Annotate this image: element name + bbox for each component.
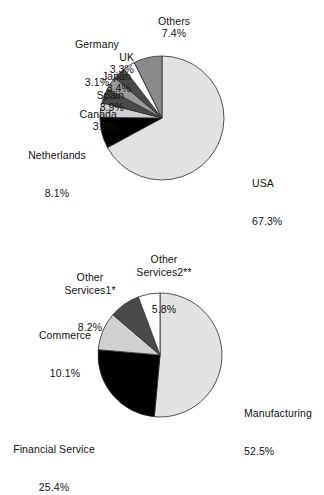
label-manufacturing-name: Manufacturing bbox=[244, 407, 324, 420]
label-others-name: Others bbox=[158, 15, 190, 27]
label-commerce-value: 10.1% bbox=[20, 367, 110, 380]
label-manufacturing: Manufacturing 52.5% bbox=[244, 382, 324, 482]
label-usa-value: 67.3% bbox=[252, 215, 318, 228]
label-others-value: 7.4% bbox=[162, 27, 186, 39]
label-financial-service-name: Financial Service bbox=[2, 443, 106, 456]
label-others: Others 7.4% bbox=[137, 2, 199, 52]
label-usa-name: USA bbox=[252, 177, 318, 190]
label-netherlands-value: 8.1% bbox=[8, 187, 106, 200]
label-netherlands-name: Netherlands bbox=[8, 149, 106, 162]
label-financial-service-value: 25.4% bbox=[2, 481, 106, 494]
label-netherlands: Netherlands 8.1% bbox=[8, 124, 106, 224]
label-other-services2-value: 5.8% bbox=[122, 303, 206, 316]
label-other-services2-name: Other Services2** bbox=[122, 253, 206, 278]
label-canada-name: Canada bbox=[80, 108, 117, 120]
label-commerce-name: Commerce bbox=[20, 329, 110, 342]
label-other-services1-name: Other Services1* bbox=[48, 271, 132, 296]
label-commerce: Commerce 10.1% bbox=[20, 304, 110, 404]
label-financial-service: Financial Service 25.4% bbox=[2, 418, 106, 495]
label-manufacturing-value: 52.5% bbox=[244, 445, 324, 458]
label-other-services2: Other Services2** 5.8% bbox=[122, 228, 206, 341]
label-usa: USA 67.3% bbox=[252, 152, 318, 252]
